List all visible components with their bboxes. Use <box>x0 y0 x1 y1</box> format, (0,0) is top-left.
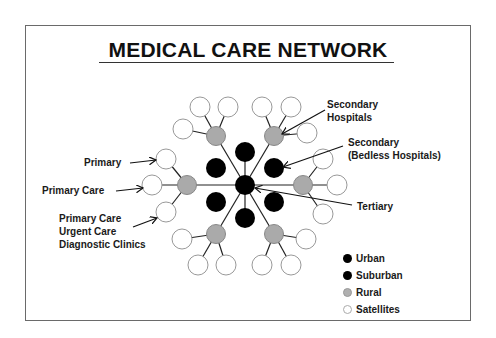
label-primary-care: Primary Care <box>42 184 104 197</box>
legend-item-satellites: Satellites <box>356 304 400 316</box>
legend-item-suburban: Suburban <box>356 270 403 282</box>
label-primary: Primary <box>84 156 121 169</box>
label-tertiary: Tertiary <box>357 200 393 213</box>
satellite-dot-icon <box>343 305 352 314</box>
rural-dot-icon <box>343 288 352 297</box>
urban-dot-icon <box>343 254 352 263</box>
legend-item-urban: Urban <box>356 253 385 265</box>
label-secondary-bedless: Secondary (Bedless Hospitals) <box>348 136 441 162</box>
label-secondary-hospitals: Secondary Hospitals <box>327 98 378 124</box>
network-diagram <box>0 0 496 338</box>
legend-item-rural: Rural <box>356 287 382 299</box>
suburban-dot-icon <box>343 271 352 280</box>
label-clinics: Primary Care Urgent Care Diagnostic Clin… <box>59 212 146 251</box>
tertiary-center-node <box>235 175 255 195</box>
